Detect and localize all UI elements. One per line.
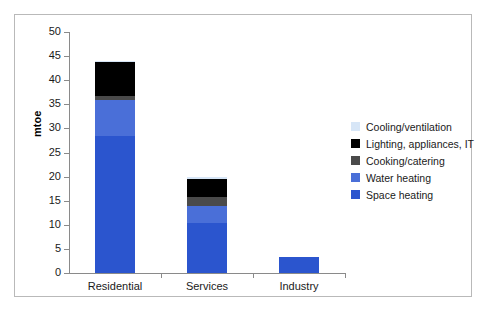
bar-segment-space-heating[interactable] — [95, 136, 135, 273]
x-axis-label-industry: Industry — [253, 279, 345, 293]
y-axis-tick-mark — [64, 177, 69, 178]
legend-swatch — [351, 156, 360, 165]
y-axis-title: mtoe — [31, 111, 43, 137]
y-axis-tick-mark — [64, 153, 69, 154]
legend-label: Cooking/catering — [366, 155, 445, 167]
y-axis-tick-mark — [64, 56, 69, 57]
legend-swatch — [351, 173, 360, 182]
legend-item-cooking-catering[interactable]: Cooking/catering — [351, 153, 481, 168]
y-axis-tick-label: 45 — [49, 49, 61, 62]
legend-label: Lighting, appliances, IT — [366, 138, 474, 150]
chart-legend: Cooling/ventilationLighting, appliances,… — [351, 119, 481, 204]
x-axis-tick-mark — [161, 273, 162, 278]
bar-segment-space-heating[interactable] — [187, 223, 227, 273]
y-axis-tick-mark — [64, 80, 69, 81]
y-axis-tick-label: 35 — [49, 97, 61, 110]
y-axis-tick-mark — [64, 128, 69, 129]
bar-segment-space-heating[interactable] — [279, 257, 319, 273]
chart-frame: mtoe 05101520253035404550 ResidentialSer… — [14, 14, 472, 297]
y-axis-tick-label: 40 — [49, 73, 61, 86]
legend-item-water-heating[interactable]: Water heating — [351, 170, 481, 185]
legend-item-lighting-appliances-it[interactable]: Lighting, appliances, IT — [351, 136, 481, 151]
y-axis-tick-mark — [64, 104, 69, 105]
x-axis-tick-mark — [253, 273, 254, 278]
y-axis-tick-mark — [64, 273, 69, 274]
bar-segment-water-heating[interactable] — [95, 100, 135, 135]
y-axis-tick-mark — [64, 249, 69, 250]
y-axis-tick-label: 0 — [55, 266, 61, 279]
y-axis-tick-label: 10 — [49, 218, 61, 231]
y-axis-tick-label: 50 — [49, 25, 61, 38]
x-axis-tick-mark — [345, 273, 346, 278]
y-axis-tick-label: 20 — [49, 170, 61, 183]
bar-segment-cooking-catering[interactable] — [187, 197, 227, 206]
legend-label: Cooling/ventilation — [366, 121, 452, 133]
y-axis-line — [69, 32, 70, 273]
bar-segment-cooling-ventilation[interactable] — [95, 61, 135, 62]
y-axis-tick-label: 5 — [55, 242, 61, 255]
bar-segment-cooking-catering[interactable] — [95, 96, 135, 101]
y-axis-tick-mark — [64, 201, 69, 202]
legend-swatch — [351, 139, 360, 148]
bar-segment-lighting-appliances-it[interactable] — [95, 62, 135, 96]
y-axis-tick-label: 25 — [49, 146, 61, 159]
plot-area: 05101520253035404550 ResidentialServices… — [69, 32, 345, 273]
bar-industry[interactable] — [279, 32, 319, 273]
bar-services[interactable] — [187, 32, 227, 273]
bar-residential[interactable] — [95, 32, 135, 273]
x-axis-line — [69, 273, 345, 274]
legend-swatch — [351, 190, 360, 199]
y-axis-tick-mark — [64, 32, 69, 33]
legend-item-space-heating[interactable]: Space heating — [351, 187, 481, 202]
y-axis-tick-mark — [64, 225, 69, 226]
y-axis-tick-label: 30 — [49, 121, 61, 134]
legend-item-cooling-ventilation[interactable]: Cooling/ventilation — [351, 119, 481, 134]
x-axis-label-services: Services — [161, 279, 253, 293]
legend-swatch — [351, 122, 360, 131]
bar-segment-lighting-appliances-it[interactable] — [187, 179, 227, 197]
y-axis-tick-label: 15 — [49, 194, 61, 207]
bar-segment-cooling-ventilation[interactable] — [187, 177, 227, 179]
legend-label: Space heating — [366, 189, 433, 201]
legend-label: Water heating — [366, 172, 431, 184]
bar-segment-water-heating[interactable] — [187, 206, 227, 223]
x-axis-label-residential: Residential — [69, 279, 161, 293]
